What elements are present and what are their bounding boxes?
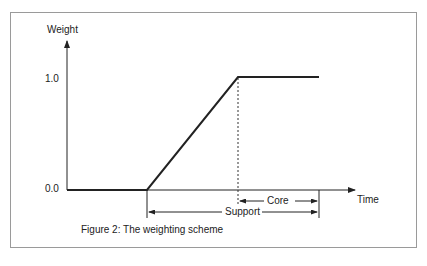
core-label: Core xyxy=(267,195,289,206)
weight-curve xyxy=(67,77,319,190)
support-label: Support xyxy=(225,206,260,217)
y-axis-label: Weight xyxy=(47,24,78,35)
y-tick-1: 1.0 xyxy=(45,73,59,84)
y-tick-0: 0.0 xyxy=(45,183,59,194)
x-axis-label: Time xyxy=(357,194,379,205)
figure-caption: Figure 2: The weighting scheme xyxy=(81,224,223,235)
